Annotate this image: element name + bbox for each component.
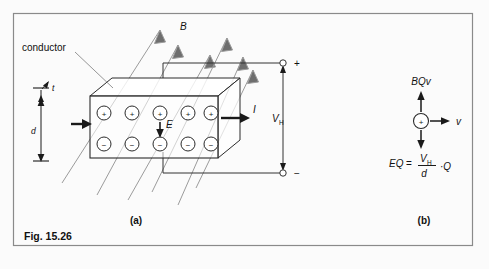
charge-negative-sign: − [130, 141, 135, 150]
charge-negative: − [97, 137, 111, 151]
equation-lhs: EQ [389, 158, 404, 169]
charge-positive: + [181, 106, 195, 120]
panel-b-label: (b) [418, 215, 431, 226]
charge-negative-sign: − [186, 141, 191, 150]
equation-numerator-sub: H [427, 159, 432, 166]
hall-effect-figure: + − V H + + + [0, 0, 489, 269]
charge-negative-sign: − [158, 141, 163, 150]
equation-factor: ·Q [440, 161, 451, 172]
terminal-positive [280, 60, 286, 66]
panel-a-label: (a) [130, 215, 142, 226]
depth-label: d [31, 126, 36, 136]
efield-label: E [166, 119, 173, 130]
figure-border [14, 14, 473, 246]
terminal-negative [280, 170, 286, 176]
charge-positive-sign: + [130, 110, 135, 119]
hall-voltage-sub: H [279, 119, 284, 126]
charge-positive-sign: + [209, 110, 214, 119]
charge-positive-sign: + [102, 110, 107, 119]
current-label: I [253, 104, 256, 115]
charge-negative-sign: − [102, 141, 107, 150]
charge-negative: − [181, 137, 195, 151]
conductor-label: conductor [22, 42, 67, 53]
charge-negative-sign: − [209, 141, 214, 150]
equation-equals: = [406, 158, 412, 169]
charge-positive: + [97, 106, 111, 120]
charge-positive-sign: + [158, 110, 163, 119]
charge-negative: − [204, 137, 218, 151]
terminal-minus-label: − [294, 168, 300, 179]
charge-negative: − [125, 137, 139, 151]
terminal-plus-label: + [294, 58, 300, 69]
charge-positive: + [204, 106, 218, 120]
charge-circle-b-sign: + [419, 118, 424, 127]
charge-positive-sign: + [186, 110, 191, 119]
figure-caption: Fig. 15.26 [24, 230, 72, 242]
figure-container: + − V H + + + [0, 0, 489, 269]
equation-denominator: d [421, 168, 427, 179]
force-label: BQv [411, 76, 431, 87]
charge-negative: − [153, 137, 167, 151]
magnetic-field-label: B [180, 21, 187, 32]
charge-positive: + [153, 106, 167, 120]
charge-positive: + [125, 106, 139, 120]
